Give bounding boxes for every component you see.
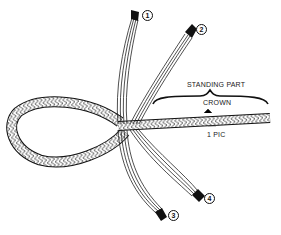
rope-splice-diagram bbox=[0, 0, 281, 235]
strand-2 bbox=[130, 34, 192, 124]
pic-label: 1 PIC bbox=[207, 131, 226, 138]
rope-eye-loop bbox=[12, 102, 125, 162]
standing-part-label: STANDING PART bbox=[187, 81, 245, 88]
crown-marker bbox=[204, 109, 212, 113]
strand-2-number: 2 bbox=[196, 24, 207, 35]
strand-1-number: 1 bbox=[142, 10, 153, 21]
strand-2-whipped-end bbox=[185, 24, 197, 38]
strand-3-number: 3 bbox=[168, 210, 179, 221]
strand-1-whipped-end bbox=[131, 10, 139, 21]
strand-4-number: 4 bbox=[204, 193, 215, 204]
strand-3 bbox=[118, 130, 162, 213]
strand-1 bbox=[117, 18, 138, 124]
crown-label: CROWN bbox=[203, 99, 231, 106]
rope-standing-part bbox=[118, 118, 270, 126]
